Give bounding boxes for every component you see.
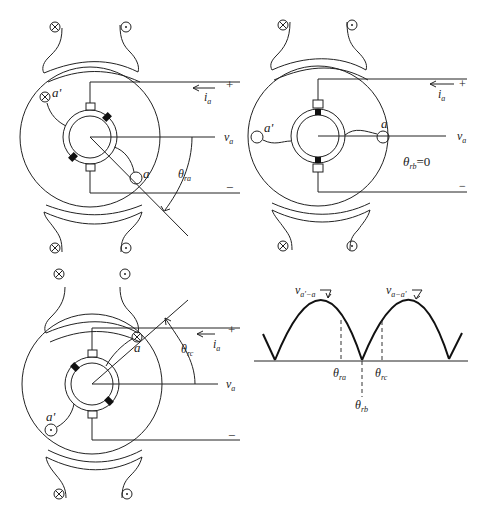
label-voltage: va [224, 130, 233, 146]
label-v-a-prime-a: va'−a [295, 283, 315, 299]
lead-negative [90, 171, 240, 193]
label-voltage: va [226, 377, 235, 393]
commutator-segment [315, 157, 321, 163]
field-conductor-into-top [54, 269, 64, 279]
field-conductor-out-bottom [122, 489, 132, 499]
field-conductor-into-top [50, 22, 60, 32]
field-conductor-into-bottom [278, 241, 288, 251]
field-conductor-out-bottom [121, 243, 131, 253]
label-a: a [143, 166, 150, 181]
brush-top [86, 103, 95, 110]
current-arrow-icon [430, 81, 454, 87]
panel-c: a a' + − ia va θrc [22, 269, 240, 499]
field-conductor-into-bottom [50, 243, 60, 253]
stator-pole-top [271, 22, 368, 80]
label-current: ia [204, 90, 211, 106]
commutator-segment [315, 109, 321, 115]
dc-machine-commutation-diagram: a a' + − ia va θra [0, 0, 485, 518]
field-conductor-out-top [347, 20, 357, 30]
commutator-segment [104, 396, 114, 406]
label-angle: θrb=0 [403, 154, 430, 171]
label-minus: − [226, 180, 233, 195]
label-angle: θra [178, 167, 191, 183]
commutator-segment [70, 362, 80, 372]
tick-theta-rc: θrc [375, 366, 388, 382]
tick-theta-ra: θra [333, 366, 346, 382]
lead-negative [318, 172, 467, 192]
label-a-prime: a' [264, 120, 274, 135]
field-conductor-out-top [120, 269, 130, 279]
tick-theta-rb: θrb [355, 398, 368, 414]
brush-top [88, 350, 97, 357]
label-plus: + [459, 77, 466, 91]
field-conductor-into-top [278, 20, 288, 30]
label-plus: + [228, 322, 235, 337]
label-v-a-a-prime: va−a' [386, 283, 407, 299]
coil-a [377, 131, 389, 143]
label-angle: θrc [181, 342, 194, 358]
stator-pole-top [43, 25, 140, 82]
panel-a: a a' + − ia va θra [20, 22, 240, 253]
label-a-prime: a' [46, 409, 56, 424]
pointer-arrow-icon [320, 290, 331, 298]
waveform-segment [449, 333, 462, 359]
label-current: ia [213, 337, 220, 353]
coil-a [130, 172, 142, 184]
brush-bottom [313, 164, 323, 172]
waveform-segment [263, 334, 275, 360]
field-conductor-into-bottom [54, 489, 64, 499]
label-minus: − [228, 428, 235, 443]
lead-negative [92, 418, 240, 440]
lead-positive [90, 82, 240, 103]
coil-a-prime [251, 131, 263, 143]
stator-pole-bottom [46, 450, 142, 498]
label-a: a [134, 340, 141, 355]
field-conductor-out-top [121, 22, 131, 32]
field-conductor-out-bottom [347, 241, 357, 251]
label-current: ia [438, 87, 445, 103]
brush-top [313, 100, 323, 108]
panel-b: a a' + − ia va θrb=0 [248, 20, 467, 251]
rotor-position-line [90, 137, 188, 236]
label-a: a [381, 116, 388, 131]
pointer-arrow-icon [412, 290, 422, 299]
rectified-voltage-waveform: va'−a va−a' θra θrb θrc [254, 283, 468, 414]
label-plus: + [226, 77, 233, 92]
label-a-prime: a' [52, 85, 62, 100]
waveform-hump-a-a-prime [362, 300, 449, 360]
label-minus: − [459, 179, 466, 193]
label-voltage: va [457, 129, 466, 145]
waveform-hump-a-prime-a [275, 300, 362, 360]
brush-bottom [88, 411, 97, 418]
brush-bottom [86, 164, 95, 171]
